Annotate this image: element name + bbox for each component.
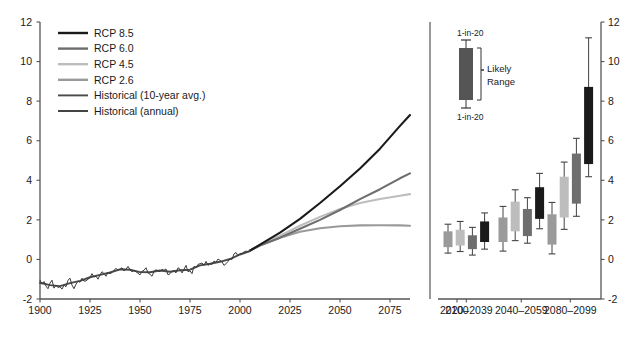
- inset-box-body: [459, 48, 473, 100]
- left-x-tick-label: 1900: [28, 304, 52, 316]
- legend-label: RCP 4.5: [94, 58, 134, 70]
- inset-legend: 1-in-201-in-20LikelyRange: [457, 28, 515, 122]
- box-body: [444, 231, 453, 247]
- legend-label: RCP 6.0: [94, 42, 134, 54]
- box-body: [548, 214, 557, 244]
- left-y-tick-label: 4: [26, 174, 32, 186]
- figure-root: -202468101219001925195019752000202520502…: [0, 0, 639, 353]
- box-plot-rcp-6-0: [468, 227, 477, 255]
- legend-entry: Historical (annual): [58, 105, 179, 117]
- left-y-tick-label: 10: [20, 55, 32, 67]
- left-x-tick-label: 2050: [328, 304, 352, 316]
- legend-entry: Historical (10-year avg.): [58, 89, 205, 101]
- series-rcp-4-5: [250, 194, 410, 250]
- legend-label: Historical (annual): [94, 105, 179, 117]
- left-y-tick-label: 12: [20, 16, 32, 28]
- left-y-tick-label: -2: [23, 293, 32, 305]
- box-plot-rcp-2-6: [548, 202, 557, 253]
- inset-bracket-label-1: Likely: [487, 63, 512, 74]
- series-historical-annual: [40, 251, 250, 290]
- right-x-tick-label: 2080–2099: [544, 304, 597, 316]
- box-body: [584, 87, 593, 164]
- inset-bracket: [477, 48, 484, 100]
- box-body: [499, 217, 508, 242]
- left-x-tick-label: 1975: [178, 304, 202, 316]
- box-plot-rcp-4-5: [456, 221, 465, 251]
- legend-entry: RCP 4.5: [58, 58, 134, 70]
- box-plot-rcp-4-5: [511, 190, 520, 241]
- series-rcp-8-5: [250, 115, 410, 251]
- box-body: [572, 154, 581, 204]
- left-x-tick-label: 2025: [278, 304, 302, 316]
- left-x-tick-label: 2000: [228, 304, 252, 316]
- climate-projection-figure: -202468101219001925195019752000202520502…: [0, 0, 639, 353]
- left-y-tick-label: 0: [26, 253, 32, 265]
- box-plot-rcp-8-5: [480, 213, 489, 249]
- box-plot-rcp-6-0: [572, 138, 581, 216]
- right-y-tick-label: 2: [608, 214, 614, 226]
- box-body: [480, 221, 489, 242]
- right-y-tick-label: -2: [608, 293, 617, 305]
- left-x-tick-label: 1925: [78, 304, 102, 316]
- right-y-tick-label: 6: [608, 134, 614, 146]
- legend-label: RCP 8.5: [94, 27, 134, 39]
- box-body: [523, 209, 532, 236]
- box-plot-rcp-2-6: [444, 224, 453, 253]
- box-body: [511, 202, 520, 232]
- right-x-tick-label: 2040–2059: [495, 304, 548, 316]
- box-plot-rcp-8-5: [584, 38, 593, 177]
- box-plot-rcp-4-5: [560, 162, 569, 229]
- legend-entry: RCP 8.5: [58, 27, 134, 39]
- box-body: [535, 187, 544, 219]
- right-y-tick-label: 0: [608, 253, 614, 265]
- left-y-tick-label: 8: [26, 95, 32, 107]
- inset-upper-label: 1-in-20: [457, 28, 484, 38]
- right-y-tick-label: 8: [608, 95, 614, 107]
- left-x-tick-label: 1950: [128, 304, 152, 316]
- left-x-tick-label: 2075: [378, 304, 402, 316]
- legend-label: RCP 2.6: [94, 74, 134, 86]
- box-plot-rcp-2-6: [499, 206, 508, 251]
- box-plot-rcp-6-0: [523, 198, 532, 244]
- left-y-tick-label: 6: [26, 134, 32, 146]
- legend-entry: RCP 2.6: [58, 74, 134, 86]
- box-body: [456, 230, 465, 246]
- box-body: [468, 235, 477, 249]
- right-x-tick-label: 2020–2039: [440, 304, 493, 316]
- inset-lower-label: 1-in-20: [457, 112, 484, 122]
- legend-entry: RCP 6.0: [58, 42, 134, 54]
- box-plot-rcp-8-5: [535, 173, 544, 228]
- legend-label: Historical (10-year avg.): [94, 89, 205, 101]
- left-y-tick-label: 2: [26, 214, 32, 226]
- box-body: [560, 177, 569, 218]
- right-y-tick-label: 4: [608, 174, 614, 186]
- inset-bracket-label-2: Range: [487, 76, 515, 87]
- right-y-tick-label: 12: [608, 16, 620, 28]
- right-y-tick-label: 10: [608, 55, 620, 67]
